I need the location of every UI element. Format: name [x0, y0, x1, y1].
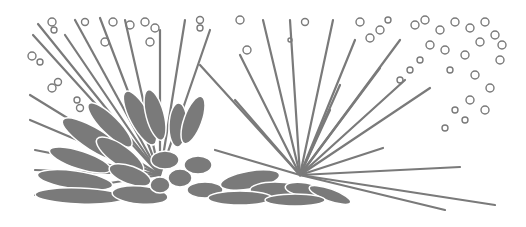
- crystal-cluster-right: [208, 166, 353, 208]
- illustration-canvas: [0, 0, 526, 227]
- crystal-cluster-left: [35, 87, 223, 207]
- crystal-illustration: [0, 0, 526, 227]
